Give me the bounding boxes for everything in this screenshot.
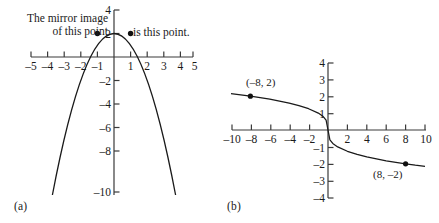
x-ticks-a	[31, 52, 193, 58]
y-tick-label: 4	[319, 57, 325, 69]
y-tick-label: 2	[319, 91, 325, 103]
x-tick-label: 2	[345, 133, 351, 145]
x-tick-label: –6	[264, 133, 277, 145]
x-tick-label: 4	[364, 133, 370, 145]
y-tick-label: 3	[319, 74, 325, 86]
chart-panel-a: –5 –4 –3 –2 –1 1 2 3 4 5 4 2 –2 –4 –6 –8…	[0, 0, 215, 223]
y-tick-label: –4	[313, 192, 326, 204]
annotation-mirror-image: The mirror image of this point	[16, 12, 108, 38]
annotation-is-this-point: is this point.	[133, 26, 190, 39]
data-point-neg8-2	[248, 94, 253, 99]
x-tick-label: –1	[91, 60, 104, 72]
x-tick-label: 5	[192, 60, 198, 72]
y-tick-label: –3	[313, 175, 326, 187]
x-tick-label: 10	[420, 133, 432, 145]
y-tick-label: –6	[99, 122, 112, 134]
y-tick-label: –8	[99, 145, 112, 157]
x-tick-label: –5	[24, 60, 37, 72]
y-tick-label: –2	[99, 75, 112, 87]
data-point-8-neg2	[403, 161, 408, 166]
x-tick-labels-b: –10 –8 –6 –4 –2 2 4 6 8 10	[222, 133, 432, 145]
annotation-line-2: of this point	[16, 25, 108, 38]
x-tick-label: 3	[161, 60, 167, 72]
y-tick-label: –10	[93, 186, 112, 198]
x-tick-label: –8	[245, 133, 258, 145]
y-tick-label: –4	[99, 98, 112, 110]
y-tick-label: –2	[313, 158, 326, 170]
panel-label-a: (a)	[14, 200, 27, 212]
x-tick-label: 6	[383, 133, 389, 145]
figure-container: –5 –4 –3 –2 –1 1 2 3 4 5 4 2 –2 –4 –6 –8…	[0, 0, 439, 223]
x-tick-label: –3	[57, 60, 70, 72]
point-label-neg8-2: (–8, 2)	[246, 76, 275, 89]
chart-panel-b: –10 –8 –6 –4 –2 2 4 6 8 10 4 3 2 1 –1 –2…	[215, 0, 439, 223]
x-tick-label: –10	[222, 133, 241, 145]
point-label-8-neg2: (8, –2)	[373, 168, 402, 181]
chart-b-svg: –10 –8 –6 –4 –2 2 4 6 8 10 4 3 2 1 –1 –2…	[215, 0, 439, 205]
x-tick-label: –4	[41, 60, 54, 72]
x-tick-label: 8	[403, 133, 409, 145]
annotation-line-1: The mirror image	[16, 12, 108, 25]
x-tick-label: 1	[128, 60, 134, 72]
y-tick-label: –1	[313, 142, 326, 154]
panel-label-b: (b)	[227, 200, 241, 212]
x-tick-label: 4	[178, 60, 184, 72]
x-tick-label: 2	[144, 60, 150, 72]
x-tick-labels-a: –5 –4 –3 –2 –1 1 2 3 4 5	[24, 60, 197, 72]
y-ticks-a	[114, 10, 120, 192]
x-tick-label: –4	[283, 133, 296, 145]
